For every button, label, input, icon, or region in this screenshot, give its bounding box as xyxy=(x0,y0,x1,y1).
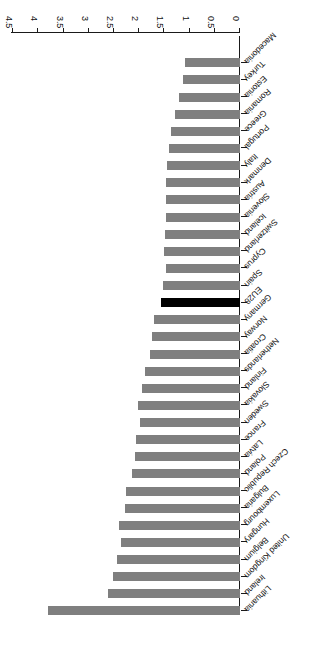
value-tick xyxy=(37,28,38,33)
value-tick-label: 3.5 xyxy=(55,16,65,28)
value-tick xyxy=(12,28,13,33)
value-tick-label: 0.5 xyxy=(206,16,216,28)
bar-row[interactable] xyxy=(165,230,240,239)
bar-row[interactable] xyxy=(166,178,240,187)
bar-slovenia[interactable] xyxy=(166,213,240,222)
bar-row[interactable] xyxy=(140,418,240,427)
bar-luxembourg[interactable] xyxy=(119,521,240,530)
value-tick-label: 2 xyxy=(130,16,140,21)
bar-row[interactable] xyxy=(185,58,240,67)
bar-turkey[interactable] xyxy=(183,75,240,84)
bar-row[interactable] xyxy=(171,127,240,136)
bar-row[interactable] xyxy=(132,469,240,478)
bar-row[interactable] xyxy=(135,452,240,461)
bar-row[interactable] xyxy=(166,213,240,222)
bar-row[interactable] xyxy=(136,435,240,444)
chart-figure: 00.511.522.533.544.5LithuaniaIrelandUnit… xyxy=(0,0,316,663)
bar-row[interactable] xyxy=(121,538,240,547)
bar-switzerland[interactable] xyxy=(164,247,240,256)
bar-row[interactable] xyxy=(161,298,240,307)
bar-row[interactable] xyxy=(119,521,240,530)
bar-row[interactable] xyxy=(150,350,240,359)
bar-row[interactable] xyxy=(126,487,240,496)
bar-row[interactable] xyxy=(183,75,240,84)
bar-slovakia[interactable] xyxy=(138,401,240,410)
bar-row[interactable] xyxy=(125,504,240,513)
bar-row[interactable] xyxy=(142,384,240,393)
bar-row[interactable] xyxy=(166,264,240,273)
bar-row[interactable] xyxy=(108,589,240,598)
bar-ireland[interactable] xyxy=(108,589,240,598)
value-tick xyxy=(163,28,164,33)
bar-eu28[interactable] xyxy=(161,298,240,307)
value-tick xyxy=(214,28,215,33)
bar-united-kingdom[interactable] xyxy=(113,572,240,581)
value-tick-label: 4 xyxy=(29,16,39,21)
bar-row[interactable] xyxy=(176,110,241,119)
bar-row[interactable] xyxy=(163,281,240,290)
bar-austria[interactable] xyxy=(166,195,240,204)
bar-row[interactable] xyxy=(179,93,240,102)
bar-finland[interactable] xyxy=(142,384,240,393)
bar-croatia[interactable] xyxy=(150,350,240,359)
value-tick-label: 1.5 xyxy=(155,16,165,28)
chart-canvas: 00.511.522.533.544.5LithuaniaIrelandUnit… xyxy=(0,0,316,663)
bar-romania[interactable] xyxy=(176,110,241,119)
value-tick-label: 0 xyxy=(231,16,241,21)
value-axis-line xyxy=(11,32,240,33)
bar-portugal[interactable] xyxy=(169,144,240,153)
bar-poland[interactable] xyxy=(132,469,240,478)
value-tick xyxy=(88,28,89,33)
bar-spain[interactable] xyxy=(163,281,240,290)
bar-sweden[interactable] xyxy=(140,418,240,427)
value-tick xyxy=(63,28,64,33)
bar-row[interactable] xyxy=(164,247,240,256)
bar-bulgaria[interactable] xyxy=(125,504,240,513)
bar-row[interactable] xyxy=(145,367,240,376)
bar-row[interactable] xyxy=(117,555,240,564)
bar-norway[interactable] xyxy=(152,332,240,341)
bar-row[interactable] xyxy=(48,607,240,616)
bar-italy[interactable] xyxy=(167,161,240,170)
bar-france[interactable] xyxy=(136,435,240,444)
value-tick-label: 2.5 xyxy=(105,16,115,28)
bar-latvia[interactable] xyxy=(135,452,240,461)
bar-row[interactable] xyxy=(138,401,240,410)
plot-area: 00.511.522.533.544.5LithuaniaIrelandUnit… xyxy=(0,0,316,663)
bar-row[interactable] xyxy=(166,195,240,204)
bar-row[interactable] xyxy=(152,332,240,341)
bar-netherlands[interactable] xyxy=(145,367,240,376)
bar-row[interactable] xyxy=(154,315,240,324)
bar-czech-republic[interactable] xyxy=(126,487,240,496)
value-tick xyxy=(189,28,190,33)
value-tick-label: 3 xyxy=(80,16,90,21)
bar-germany[interactable] xyxy=(154,315,240,324)
bar-lithuania[interactable] xyxy=(48,607,240,616)
bar-row[interactable] xyxy=(113,572,240,581)
bar-row[interactable] xyxy=(167,161,240,170)
bar-denmark[interactable] xyxy=(166,178,240,187)
bar-macedonia[interactable] xyxy=(185,58,240,67)
bar-cyprus[interactable] xyxy=(166,264,240,273)
value-tick xyxy=(239,28,240,33)
bar-estonia[interactable] xyxy=(179,93,240,102)
value-tick xyxy=(113,28,114,33)
bar-iceland[interactable] xyxy=(165,230,240,239)
category-label-spain: Spain xyxy=(242,267,264,289)
value-tick xyxy=(138,28,139,33)
bar-belgium[interactable] xyxy=(117,555,240,564)
bar-hungary[interactable] xyxy=(121,538,240,547)
bar-row[interactable] xyxy=(169,144,240,153)
value-tick-label: 4.5 xyxy=(4,16,14,28)
value-tick-label: 1 xyxy=(181,16,191,21)
bar-greece[interactable] xyxy=(171,127,240,136)
